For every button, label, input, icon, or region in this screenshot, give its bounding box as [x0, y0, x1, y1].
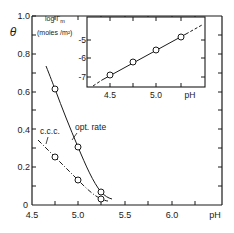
inset-y-label-line2: (moles /m²): [37, 29, 72, 37]
data-point: [75, 144, 81, 150]
y-tick-labels: 1.0 0.8 0.6 0.4 0.2 0: [17, 11, 30, 210]
y-tick-label: 0.2: [17, 162, 30, 172]
inset-x-tick-labels: 4.5 5.0: [104, 90, 162, 100]
data-point: [52, 154, 58, 160]
opt-rate-annotation: opt. rate: [75, 122, 106, 132]
inset-y-tick-label: -5: [78, 35, 86, 45]
inset-y-tick-label: -7: [78, 72, 86, 82]
ccc-curve: [38, 140, 108, 201]
data-point: [98, 196, 104, 202]
data-point: [98, 189, 104, 195]
x-tick-labels: 4.5 5.0 5.5 6.0: [26, 210, 179, 220]
ccc-annotation: c.c.c.: [40, 126, 60, 136]
inset-x-axis-label: pH: [185, 90, 196, 100]
y-tick-label: 0.6: [17, 87, 30, 97]
ccc-pointer: [46, 137, 48, 144]
data-point: [75, 177, 81, 183]
data-point: [107, 72, 113, 78]
inset-x-tick-label: 4.5: [104, 90, 116, 100]
chart: 1.0 0.8 0.6 0.4 0.2 0 4.5 5.0 5.5 6.0 pH…: [0, 0, 234, 233]
inset-y-tick-label: -6: [78, 53, 86, 63]
y-tick-label: 1.0: [17, 11, 30, 21]
data-point: [153, 47, 159, 53]
x-tick-label: 4.5: [26, 210, 39, 220]
inset-y-tick-labels: -5 -6 -7: [78, 35, 86, 82]
data-point: [178, 34, 184, 40]
inset-plot: -5 -6 -7 4.5 5.0 pH log Γm (moles /m²): [37, 15, 205, 100]
x-tick-label: 6.0: [166, 210, 179, 220]
x-axis-label: pH: [209, 210, 221, 220]
x-tick-label: 5.0: [72, 210, 85, 220]
y-tick-label: 0.8: [17, 49, 30, 59]
y-tick-label: 0.4: [17, 125, 30, 135]
y-axis-label: θ: [10, 25, 17, 39]
x-tick-label: 5.5: [119, 210, 132, 220]
data-point: [130, 59, 136, 65]
inset-x-tick-label: 5.0: [150, 90, 162, 100]
data-point: [52, 86, 58, 92]
inset-frame: [87, 17, 205, 87]
y-tick-label: 0: [23, 200, 28, 210]
